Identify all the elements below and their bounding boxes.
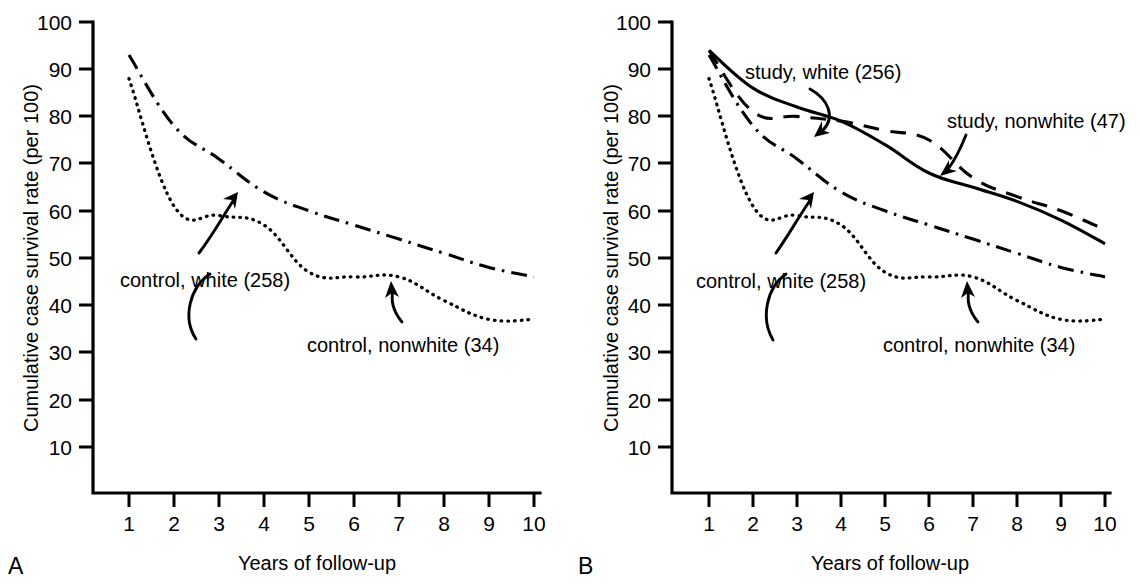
control-white-label: control, white (258) xyxy=(120,269,290,291)
x-tick-label: 3 xyxy=(791,512,803,535)
y-tick-label: 60 xyxy=(49,200,72,223)
control-nonwhite-label: control, nonwhite (34) xyxy=(307,334,499,356)
y-tick-label: 80 xyxy=(49,105,72,128)
panel-a-x-tick-labels: 1 2 3 4 5 6 7 8 9 10 xyxy=(123,512,546,535)
y-tick-label: 90 xyxy=(628,58,651,81)
panel-a-letter: A xyxy=(8,553,24,579)
study-white-label: study, white (256) xyxy=(745,61,901,83)
y-tick-label: 100 xyxy=(616,11,651,34)
panel-a-axis-lines xyxy=(93,22,540,493)
panel-a-x-ticks xyxy=(129,493,534,507)
y-tick-label: 70 xyxy=(628,152,651,175)
y-tick-label: 10 xyxy=(628,436,651,459)
panel-b-x-ticks xyxy=(709,493,1105,507)
x-tick-label: 8 xyxy=(438,512,450,535)
panel-a: Cumulative case survival rate (per 100) … xyxy=(0,0,570,587)
panel-b-y-ticks xyxy=(658,22,672,447)
x-tick-label: 7 xyxy=(967,512,979,535)
x-tick-label: 3 xyxy=(213,512,225,535)
y-tick-label: 40 xyxy=(628,294,651,317)
panel-b-letter: B xyxy=(578,553,593,579)
panel-a-x-axis-title: Years of follow-up xyxy=(238,552,396,574)
study-nonwhite-label: study, nonwhite (47) xyxy=(947,110,1126,132)
study-nonwhite-arrowhead xyxy=(940,160,957,176)
control-nonwhite-label-b: control, nonwhite (34) xyxy=(883,334,1075,356)
y-tick-label: 20 xyxy=(49,389,72,412)
y-tick-label: 40 xyxy=(49,294,72,317)
y-tick-label: 50 xyxy=(49,247,72,270)
x-tick-label: 9 xyxy=(1055,512,1067,535)
y-tick-label: 100 xyxy=(37,11,72,34)
x-tick-label: 6 xyxy=(923,512,935,535)
y-tick-label: 30 xyxy=(49,341,72,364)
y-tick-label: 50 xyxy=(628,247,651,270)
y-tick-label: 80 xyxy=(628,105,651,128)
x-tick-label: 9 xyxy=(483,512,495,535)
panel-b-y-axis-title: Cumulative case survival rate (per 100) xyxy=(600,84,622,432)
x-tick-label: 10 xyxy=(1093,512,1116,535)
x-tick-label: 1 xyxy=(703,512,715,535)
y-tick-label: 60 xyxy=(628,200,651,223)
x-tick-label: 4 xyxy=(835,512,847,535)
panel-a-annotation-leaders xyxy=(189,192,402,339)
x-tick-label: 10 xyxy=(522,512,545,535)
panel-a-y-ticks xyxy=(79,22,93,447)
study-nonwhite-leader xyxy=(948,135,966,169)
x-tick-label: 1 xyxy=(123,512,135,535)
y-tick-label: 70 xyxy=(49,152,72,175)
figure-root: Cumulative case survival rate (per 100) … xyxy=(0,0,1140,587)
panel-b: Cumulative case survival rate (per 100) … xyxy=(570,0,1140,587)
series-control-nonwhite xyxy=(129,55,534,277)
control-white-arrow-stem xyxy=(199,201,233,253)
panel-b-x-tick-labels: 1 2 3 4 5 6 7 8 9 10 xyxy=(703,512,1117,535)
series-control-nonwhite xyxy=(709,55,1105,277)
y-tick-label: 10 xyxy=(49,436,72,459)
panel-b-x-axis-title: Years of follow-up xyxy=(811,552,969,574)
y-tick-label: 20 xyxy=(628,389,651,412)
y-tick-label: 30 xyxy=(628,341,651,364)
panel-a-y-tick-labels: 100 90 80 70 60 50 40 30 20 10 xyxy=(37,11,72,459)
x-tick-label: 2 xyxy=(747,512,759,535)
x-tick-label: 7 xyxy=(393,512,405,535)
panel-b-axis-lines xyxy=(672,22,1110,493)
panel-a-y-axis-title: Cumulative case survival rate (per 100) xyxy=(20,84,42,432)
panel-b-svg: Cumulative case survival rate (per 100) … xyxy=(570,0,1140,587)
x-tick-label: 2 xyxy=(168,512,180,535)
x-tick-label: 8 xyxy=(1011,512,1023,535)
x-tick-label: 5 xyxy=(879,512,891,535)
y-tick-label: 90 xyxy=(49,58,72,81)
x-tick-label: 5 xyxy=(303,512,315,535)
study-white-leader xyxy=(810,89,829,130)
panel-a-svg: Cumulative case survival rate (per 100) … xyxy=(0,0,570,587)
x-tick-label: 6 xyxy=(348,512,360,535)
control-white-label-b: control, white (258) xyxy=(696,270,866,292)
control-white-arrow-stem-b xyxy=(776,202,809,253)
x-tick-label: 4 xyxy=(258,512,270,535)
